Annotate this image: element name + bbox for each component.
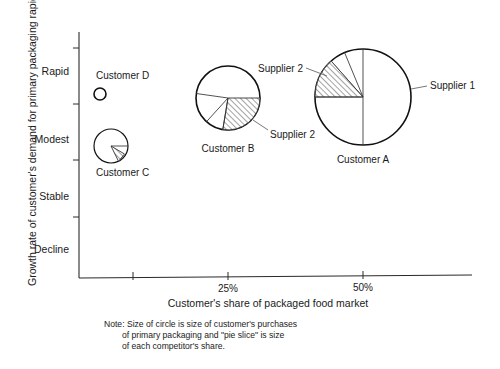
callout-supplier-1: Supplier 1 [411,80,475,91]
y-axis-label-decline: Decline [34,243,69,255]
supplier-2-bottom-label: Supplier 2 [270,129,315,140]
y-axis-label-stable: Stable [39,190,69,202]
callout-supplier-2-bottom: Supplier 2 [253,120,315,140]
x-tick-label-25: 25% [218,283,238,294]
callout-supplier-2-top: Supplier 2 [258,63,327,76]
datapoint-customer-d[interactable]: Customer D [94,70,149,100]
x-axis-line [79,275,472,278]
supplier-1-label: Supplier 1 [430,80,475,91]
y-axis-label-modest: Modest [35,133,70,145]
bubble-pie-chart: Rapid Modest Stable Decline Growth rate … [0,0,500,369]
datapoint-customer-a[interactable]: Customer A [315,49,411,165]
customer-b-slice-supplier-2 [223,98,260,130]
customer-a-label: Customer A [337,154,390,165]
y-axis-label-rapid: Rapid [42,65,70,77]
note-line-3: of each competitor's share. [122,341,225,351]
supplier-2-top-label: Supplier 2 [258,63,303,74]
x-tick-label-50: 50% [353,282,373,293]
y-axis-title: Growth rate of customer's demand for pri… [26,0,38,286]
chart-page: Rapid Modest Stable Decline Growth rate … [0,0,500,369]
datapoint-customer-b[interactable]: Customer B [196,66,260,154]
note-block: Note: Size of circle is size of customer… [104,319,297,351]
x-axis-title: Customer's share of packaged food market [168,297,369,309]
customer-b-label: Customer B [202,143,255,154]
supplier-2-bottom-leader-line [253,120,268,130]
customer-c-label: Customer C [96,167,149,178]
datapoint-customer-c[interactable]: Customer C [94,129,149,178]
customer-d-bubble [94,88,106,100]
customer-d-label: Customer D [96,70,149,81]
note-line-2: of primary packaging and "pie slice" is … [122,330,285,340]
note-line-1: Note: Size of circle is size of customer… [104,319,297,329]
supplier-1-leader-line [411,86,427,89]
